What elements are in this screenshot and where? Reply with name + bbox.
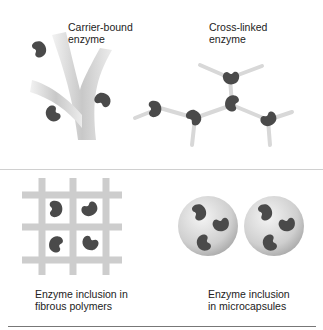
enzyme-icon xyxy=(80,200,100,219)
enzyme-icon xyxy=(43,104,62,124)
microcapsule-right xyxy=(244,196,304,256)
bottom-rule xyxy=(8,326,316,327)
panel-divider xyxy=(0,169,323,170)
enzyme-immobilization-diagram xyxy=(0,0,323,330)
enzyme-icon xyxy=(93,90,113,109)
carrier-bound-illustration xyxy=(30,32,113,140)
enzyme-icon xyxy=(80,234,100,253)
fibrous-polymer-grid xyxy=(22,178,122,275)
enzyme-icon xyxy=(149,101,162,117)
enzyme-icon xyxy=(223,93,240,113)
cross-linked-label: Cross-linked enzyme xyxy=(209,21,267,45)
enzyme-icon xyxy=(223,72,239,85)
enzyme-icon xyxy=(50,201,63,217)
cross-linked-enzymes xyxy=(149,72,279,129)
enzyme-icon xyxy=(47,234,64,254)
enzyme-icon xyxy=(31,39,48,59)
fibrous-polymers-label: Enzyme inclusion in fibrous polymers xyxy=(35,288,128,312)
microcapsule-left xyxy=(178,196,238,256)
carrier-bound-label: Carrier-bound enzyme xyxy=(68,21,133,45)
microcapsules-label: Enzyme inclusion in microcapsules xyxy=(208,288,290,312)
